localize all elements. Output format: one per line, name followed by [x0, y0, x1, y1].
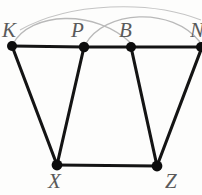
- graph-figure: K P B N X Z: [0, 0, 202, 195]
- vertex-label-p: P: [71, 20, 84, 41]
- vertex-b: [126, 42, 136, 52]
- vertex-n: [196, 42, 202, 52]
- arc-p-n: [85, 17, 200, 45]
- edge-p-x: [57, 47, 84, 165]
- graph-canvas: [0, 0, 202, 195]
- vertex-k: [7, 41, 17, 51]
- vertex-label-n: N: [190, 20, 202, 41]
- vertex-label-b: B: [119, 20, 132, 41]
- edge-k-p: [12, 46, 84, 47]
- vertex-p: [79, 42, 89, 52]
- edge-k-x: [12, 46, 57, 165]
- edge-x-z: [57, 165, 157, 166]
- arc-group: [13, 7, 201, 45]
- edge-n-z: [157, 47, 202, 166]
- vertex-label-z: Z: [165, 171, 177, 192]
- arc-k-n: [20, 7, 201, 30]
- vertex-label-x: X: [48, 171, 61, 192]
- vertex-z: [152, 161, 163, 172]
- edge-b-z: [131, 47, 157, 166]
- vertex-label-k: K: [2, 20, 16, 41]
- edge-group: [12, 46, 202, 166]
